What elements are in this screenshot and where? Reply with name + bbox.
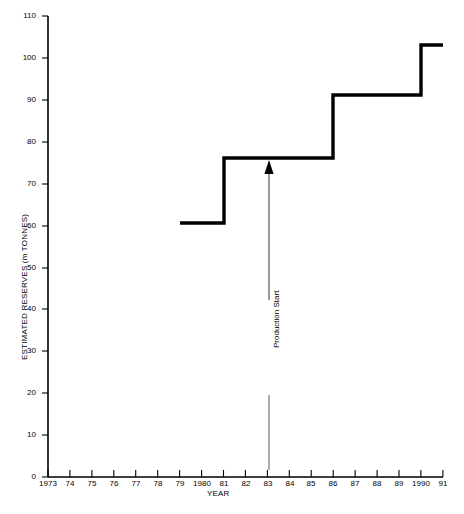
- x-tick-label: 83: [258, 479, 278, 488]
- x-tick-label: 88: [367, 479, 387, 488]
- x-tick-label: 1990: [410, 479, 432, 488]
- y-tick-label: 100: [14, 53, 36, 62]
- x-tick-label: 76: [104, 479, 124, 488]
- y-tick-label: 70: [14, 179, 36, 188]
- x-tick-label: 78: [148, 479, 168, 488]
- x-tick-label: 1980: [191, 479, 213, 488]
- x-tick-label: 87: [345, 479, 365, 488]
- x-tick-label: 74: [60, 479, 80, 488]
- y-axis-title: ESTIMATED RESERVES (m TONNES): [20, 214, 29, 360]
- y-axis-ticks: [42, 16, 48, 477]
- y-tick-label: 10: [14, 430, 36, 439]
- x-tick-label: 91: [433, 479, 453, 488]
- x-tick-label: 75: [82, 479, 102, 488]
- x-tick-label: 82: [236, 479, 256, 488]
- x-tick-label: 86: [323, 479, 343, 488]
- x-tick-label: 79: [170, 479, 190, 488]
- x-axis-title: YEAR: [207, 489, 230, 498]
- x-tick-label: 1973: [38, 479, 58, 488]
- x-axis-ticks: [48, 470, 443, 477]
- x-tick-label: 85: [301, 479, 321, 488]
- y-tick-label: 20: [14, 388, 36, 397]
- chart-plot-area: [0, 0, 464, 514]
- chart-container: 0 10 20 30 40 50 60 70 80 90 100 110 197…: [0, 0, 464, 514]
- y-tick-label: 80: [14, 137, 36, 146]
- y-tick-label: 90: [14, 95, 36, 104]
- x-tick-label: 77: [126, 479, 146, 488]
- x-tick-label: 84: [280, 479, 300, 488]
- production-start-label: Production Start: [272, 291, 281, 348]
- x-tick-label: 81: [214, 479, 234, 488]
- series-estimated-reserves: [180, 45, 443, 223]
- y-tick-label: 0: [14, 472, 36, 481]
- x-tick-label: 89: [389, 479, 409, 488]
- y-tick-label: 110: [14, 11, 36, 20]
